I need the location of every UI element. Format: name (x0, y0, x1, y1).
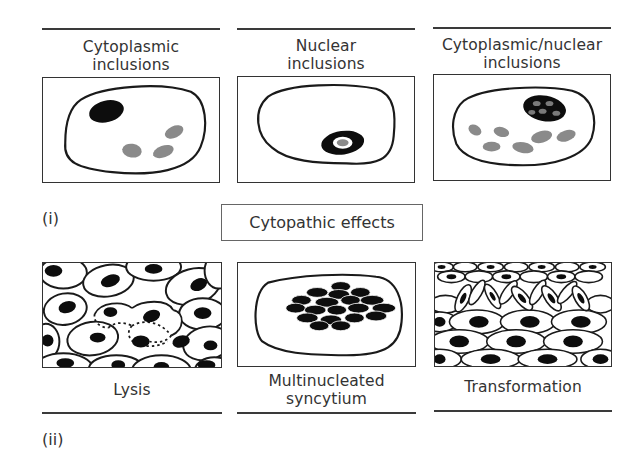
title-line: inclusions (42, 56, 220, 74)
panel-title-syncytium: Multinucleated syncytium (237, 372, 416, 408)
panel-nuclear-inclusions (237, 76, 415, 183)
center-label-text: Cytopathic effects (249, 213, 395, 232)
part-label-ii: (ii) (42, 430, 63, 449)
part-label-i: (i) (42, 209, 59, 228)
panel-title-nuclear: Nuclear inclusions (237, 37, 415, 73)
panel-cytoplasmic-inclusions (42, 77, 220, 183)
title-line: Nuclear (237, 37, 415, 55)
divider-line (42, 28, 220, 30)
title-line: Cytoplasmic (42, 38, 220, 56)
cells-transformation-icon (435, 263, 611, 366)
panel-syncytium (237, 262, 416, 367)
panel-cytoplasmic-nuclear-inclusions (433, 74, 611, 181)
panel-title-cytoplasmic-nuclear: Cytoplasmic/nuclear inclusions (425, 36, 619, 72)
title-line: syncytium (237, 390, 416, 408)
divider-line (433, 27, 611, 29)
panel-transformation (434, 262, 612, 367)
title-line: Multinucleated (237, 372, 416, 390)
panel-lysis (42, 262, 222, 368)
cells-lysis-icon (43, 263, 221, 367)
divider-line (237, 412, 416, 414)
cell-cytoplasmic-inclusions-icon (43, 78, 219, 182)
cell-syncytium-icon (238, 263, 415, 366)
title-line: Cytoplasmic/nuclear (425, 36, 619, 54)
panel-title-lysis: Lysis (42, 381, 222, 399)
divider-line (434, 410, 612, 412)
divider-line (42, 412, 222, 414)
title-line: Transformation (434, 378, 612, 396)
cell-nuclear-inclusions-icon (238, 77, 414, 182)
title-line: inclusions (425, 54, 619, 72)
panel-title-transformation: Transformation (434, 378, 612, 396)
title-line: Lysis (42, 381, 222, 399)
divider-line (237, 28, 415, 30)
panel-title-cytoplasmic: Cytoplasmic inclusions (42, 38, 220, 74)
cell-cytoplasmic-nuclear-inclusions-icon (434, 75, 610, 180)
cytopathic-effects-label: Cytopathic effects (221, 204, 423, 241)
title-line: inclusions (237, 55, 415, 73)
